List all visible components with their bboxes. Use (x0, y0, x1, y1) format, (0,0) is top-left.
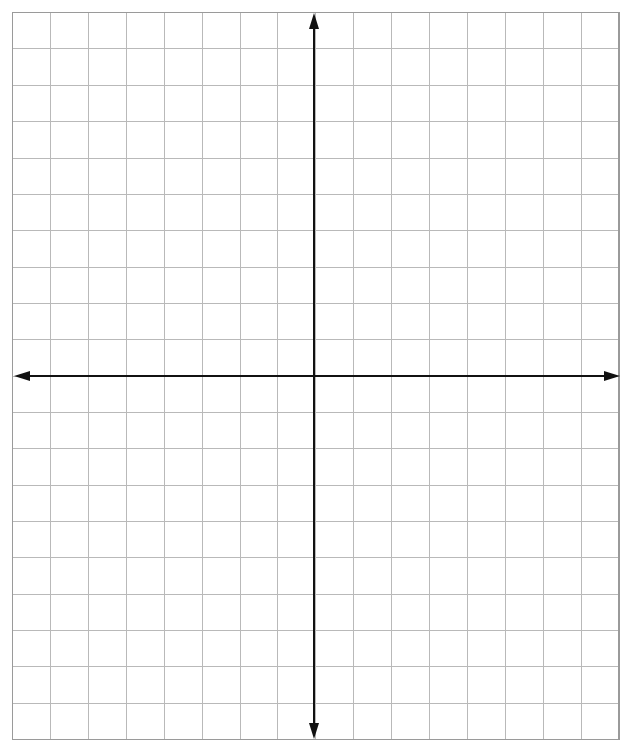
coordinate-grid-page (0, 0, 632, 752)
coordinate-grid-graph (0, 0, 632, 752)
